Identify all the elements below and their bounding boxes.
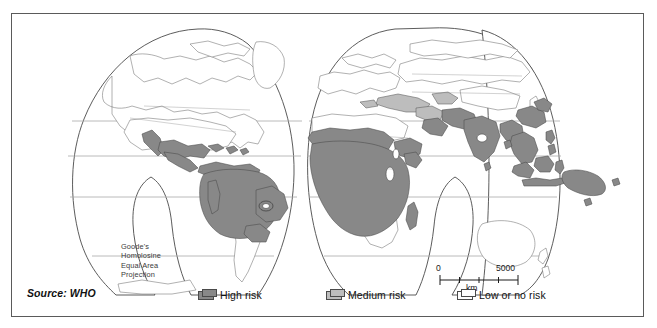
scale-min-label: 0 — [436, 263, 441, 273]
legend-label-high-risk: High risk — [220, 289, 262, 301]
legend-swatch-medium-risk — [326, 291, 342, 300]
map-figure: Goode's Homolosine Equal Area Projection… — [0, 0, 657, 328]
legend-swatch-high-risk — [198, 291, 214, 300]
world-map — [12, 14, 643, 316]
legend-item-high-risk: High risk — [198, 286, 262, 304]
legend-label-medium-risk: Medium risk — [348, 289, 406, 301]
scale-max-label: 5000 — [496, 263, 515, 273]
legend-swatch-low-risk — [457, 291, 473, 300]
legend-label-low-risk: Low or no risk — [479, 289, 546, 301]
projection-label: Goode's Homolosine Equal Area Projection — [121, 242, 161, 280]
legend-item-medium-risk: Medium risk — [326, 286, 406, 304]
legend: High risk Medium risk Low or no risk — [0, 286, 657, 306]
figure-frame: Goode's Homolosine Equal Area Projection… — [11, 13, 644, 317]
legend-item-low-risk: Low or no risk — [457, 286, 546, 304]
